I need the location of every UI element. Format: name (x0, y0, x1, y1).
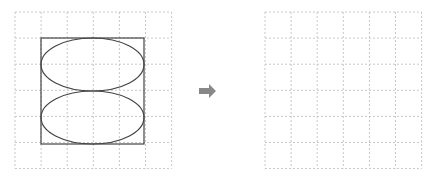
source-grid (15, 12, 172, 169)
target-grid (265, 12, 422, 169)
diagram-canvas (0, 0, 435, 183)
arrow-shape (199, 84, 216, 98)
right-arrow-icon (199, 84, 216, 98)
ellipse-shape (41, 91, 144, 144)
source-figure (41, 38, 144, 144)
